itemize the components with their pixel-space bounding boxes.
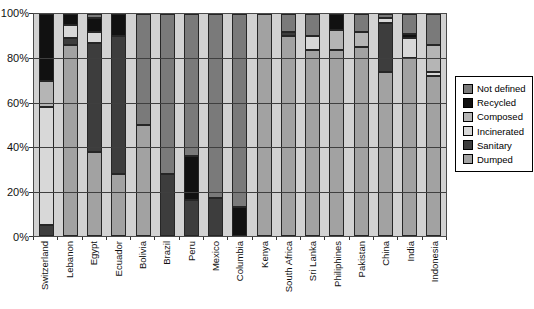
legend-item: Dumped: [463, 154, 526, 165]
legend-label: Sanitary: [477, 140, 512, 151]
bar-switzerland: [39, 14, 54, 236]
stacked-bar-chart: 100% 80% 60% 40% 20% 0% SwitzerlandLeban…: [0, 0, 534, 309]
bar-segment-incinerated: [305, 36, 320, 49]
x-axis-label: Switzerland: [40, 241, 50, 290]
bar-segment-not-defined: [426, 14, 441, 45]
bar-columbia: [232, 14, 247, 236]
bar-mexico: [208, 14, 223, 236]
bar-segment-not-defined: [160, 14, 175, 174]
bar-segment-recycled: [111, 14, 126, 36]
legend-label: Composed: [477, 111, 523, 122]
bar-brazil: [160, 14, 175, 236]
bar-segment-dumped: [281, 36, 296, 236]
bar-segment-not-defined: [305, 14, 320, 36]
bar-segment-sanitary: [39, 225, 54, 236]
bar-segment-sanitary: [63, 38, 78, 45]
x-axis-label: Pakistan: [357, 241, 367, 277]
legend: Not defined Recycled Composed Incinerate…: [455, 76, 533, 172]
bar-segment-dumped: [426, 76, 441, 236]
x-axis-label: India: [406, 241, 416, 262]
y-axis-label: 20%: [7, 186, 29, 198]
legend-swatch-recycled: [463, 98, 473, 108]
y-axis-labels: 100% 80% 60% 40% 20% 0%: [0, 13, 29, 237]
legend-swatch-incinerated: [463, 126, 473, 136]
x-axis-label: Kenya: [260, 241, 270, 268]
legend-item: Incinerated: [463, 126, 526, 137]
bar-segment-composed: [329, 30, 344, 50]
bar-segment-not-defined: [208, 14, 223, 198]
bar-kenya: [257, 14, 272, 236]
bar-segment-sanitary: [378, 23, 393, 72]
x-axis-label: Lebanon: [65, 241, 75, 278]
y-axis-label: 60%: [7, 97, 29, 109]
legend-label: Recycled: [477, 97, 516, 108]
bar-peru: [184, 14, 199, 236]
bar-segment-dumped: [354, 47, 369, 236]
bar-segment-dumped: [257, 14, 272, 236]
bar-segment-recycled: [232, 207, 247, 236]
bar-segment-not-defined: [281, 14, 296, 32]
x-axis-label: Sri Lanka: [308, 241, 318, 281]
bar-segment-recycled: [329, 14, 344, 30]
x-axis-label: Egypt: [89, 241, 99, 265]
bar-philiphines: [329, 14, 344, 236]
x-axis-label: Ecuador: [114, 241, 124, 276]
y-axis-label: 80%: [7, 52, 29, 64]
legend-swatch-sanitary: [463, 140, 473, 150]
bar-segment-dumped: [329, 50, 344, 236]
bar-segment-composed: [354, 32, 369, 48]
x-axis-label: Peru: [187, 241, 197, 261]
plot-area: [33, 13, 447, 237]
bar-lebanon: [63, 14, 78, 236]
bar-indonesia: [426, 14, 441, 236]
bar-segment-incinerated: [87, 32, 102, 43]
y-axis-label: 100%: [1, 7, 29, 19]
x-axis-label: South Africa: [284, 241, 294, 292]
legend-label: Dumped: [477, 154, 513, 165]
bar-segment-dumped: [87, 152, 102, 236]
gridline-60: [34, 103, 446, 104]
bar-segment-recycled: [39, 14, 54, 81]
x-axis-ticks: [33, 237, 447, 240]
bar-segment-sanitary: [184, 200, 199, 236]
bar-segment-incinerated: [63, 25, 78, 38]
bar-segment-recycled: [87, 18, 102, 31]
y-axis-label: 40%: [7, 141, 29, 153]
bar-egypt: [87, 14, 102, 236]
bar-segment-not-defined: [354, 14, 369, 32]
legend-label: Incinerated: [477, 126, 524, 137]
bar-segment-sanitary: [160, 174, 175, 236]
bar-segment-sanitary: [87, 43, 102, 152]
bar-segment-recycled: [63, 14, 78, 25]
bar-sri-lanka: [305, 14, 320, 236]
x-axis-label: Bolivia: [138, 241, 148, 269]
bar-segment-incinerated: [402, 38, 417, 58]
legend-item: Recycled: [463, 97, 526, 108]
bar-pakistan: [354, 14, 369, 236]
x-axis-label: Columbia: [235, 241, 245, 281]
bar-segment-dumped: [136, 125, 151, 236]
bar-segment-not-defined: [136, 14, 151, 125]
bar-china: [378, 14, 393, 236]
legend-swatch-dumped: [463, 154, 473, 164]
bar-ecuador: [111, 14, 126, 236]
y-axis-label: 0%: [13, 231, 29, 243]
gridline-20: [34, 192, 446, 193]
x-axis-labels: SwitzerlandLebanonEgyptEcuadorBoliviaBra…: [33, 241, 447, 307]
legend-item: Sanitary: [463, 140, 526, 151]
bar-segment-dumped: [305, 50, 320, 236]
bar-segment-recycled: [184, 156, 199, 200]
bars-layer: [34, 14, 446, 236]
x-axis-label: Indonesia: [430, 241, 440, 282]
x-axis-label: China: [381, 241, 391, 266]
bar-segment-incinerated: [39, 107, 54, 225]
bar-segment-dumped: [63, 45, 78, 236]
bar-segment-dumped: [111, 174, 126, 236]
x-axis-label: Mexico: [211, 241, 221, 271]
legend-swatch-composed: [463, 112, 473, 122]
bar-bolivia: [136, 14, 151, 236]
legend-label: Not defined: [477, 83, 526, 94]
bar-segment-not-defined: [184, 14, 199, 156]
bar-segment-dumped: [378, 72, 393, 236]
legend-item: Composed: [463, 111, 526, 122]
